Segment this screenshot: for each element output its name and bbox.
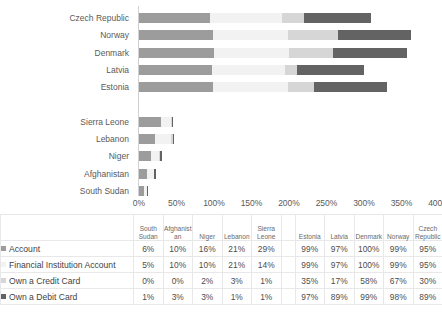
table-cell: 100%	[354, 257, 384, 273]
table-cell: 17%	[325, 273, 355, 289]
series-label: Financial Institution Account	[9, 260, 116, 270]
bar-track	[139, 169, 439, 179]
x-tick-100: 100%	[197, 197, 231, 210]
bar-track	[139, 134, 439, 144]
bar-track	[139, 117, 439, 127]
table-head: South SudanAfghanistanNigerLebanonSierra…	[1, 215, 442, 241]
bar-track	[139, 186, 439, 196]
table-body: Account6%10%16%21%29%99%97%100%99%95%Fin…	[1, 241, 442, 305]
bar-segment-account	[139, 13, 210, 23]
series-legend-item-own-a-credit-card: Own a Credit Card	[1, 273, 134, 289]
table-row: Own a Debit Card1%3%3%1%1%97%89%99%98%89…	[1, 289, 442, 305]
table-header-norway: Norway	[384, 215, 414, 241]
table-cell: 1%	[134, 289, 164, 305]
table-cell: 99%	[354, 289, 384, 305]
table-cell: 99%	[384, 257, 414, 273]
bar-segment-own-a-debit-card	[297, 65, 364, 75]
bar-segment-financial-institution-account	[147, 169, 155, 179]
table-cell-spacer	[281, 241, 295, 257]
table-cell: 0%	[163, 273, 193, 289]
bar-segment-own-a-debit-card	[173, 134, 174, 144]
category-label: Sierra Leone	[0, 114, 133, 130]
x-tick-400: 400%	[422, 197, 442, 210]
table-cell: 97%	[295, 289, 325, 305]
bar-segment-account	[139, 30, 213, 40]
bar-segment-account	[139, 117, 161, 127]
table-cell: 21%	[222, 257, 252, 273]
table-cell: 89%	[413, 289, 442, 305]
bar-segment-account	[139, 169, 147, 179]
category-label	[0, 97, 133, 113]
table-cell: 99%	[384, 241, 414, 257]
bar-segment-financial-institution-account	[151, 151, 159, 161]
table-cell: 97%	[325, 257, 355, 273]
legend-swatch-icon	[1, 262, 6, 267]
table-cell: 1%	[222, 289, 252, 305]
bar-segment-own-a-debit-card	[147, 186, 148, 196]
table-row: Own a Credit Card0%0%2%3%1%35%17%58%67%3…	[1, 273, 442, 289]
table-cell: 3%	[163, 289, 193, 305]
table-cell-spacer	[281, 289, 295, 305]
bar-segment-own-a-credit-card	[285, 65, 298, 75]
series-label: Own a Credit Card	[9, 276, 80, 286]
x-tick-350: 350%	[385, 197, 419, 210]
table-cell: 6%	[134, 241, 164, 257]
table-cell: 30%	[413, 273, 442, 289]
series-legend-item-financial-institution-account: Financial Institution Account	[1, 257, 134, 273]
table-header-south-sudan: South Sudan	[134, 215, 164, 241]
chart-row-norway: Norway	[0, 27, 442, 43]
category-label: Afghanistan	[0, 166, 133, 182]
table-cell: 58%	[354, 273, 384, 289]
chart-row-afghanistan: Afghanistan	[0, 166, 442, 182]
table-header-latvia: Latvia	[325, 215, 355, 241]
bar-track	[139, 65, 439, 75]
table-cell: 98%	[384, 289, 414, 305]
bar-segment-financial-institution-account	[214, 48, 289, 58]
table-cell: 100%	[354, 241, 384, 257]
bar-segment-financial-institution-account	[212, 65, 285, 75]
category-label: Denmark	[0, 45, 133, 61]
table-cell: 95%	[413, 241, 442, 257]
chart-row-estonia: Estonia	[0, 79, 442, 95]
category-label: Lebanon	[0, 131, 133, 147]
x-tick-250: 250%	[310, 197, 344, 210]
table-cell: 10%	[163, 241, 193, 257]
chart-row-spacer	[0, 97, 442, 113]
chart-row-latvia: Latvia	[0, 62, 442, 78]
category-label: Latvia	[0, 62, 133, 78]
table-row: Account6%10%16%21%29%99%97%100%99%95%	[1, 241, 442, 257]
bar-segment-own-a-debit-card	[154, 169, 156, 179]
x-tick-0: 0%	[122, 197, 156, 210]
stacked-bar-chart: Czech RepublicNorwayDenmarkLatviaEstonia…	[0, 0, 442, 214]
table-cell: 95%	[413, 257, 442, 273]
table-header-afghanistan: Afghanistan	[163, 215, 193, 241]
chart-row-denmark: Denmark	[0, 45, 442, 61]
series-legend-item-account: Account	[1, 241, 134, 257]
table-header-sierra-leone: Sierra Leone	[252, 215, 282, 241]
series-legend-item-own-a-debit-card: Own a Debit Card	[1, 289, 134, 305]
bar-segment-own-a-credit-card	[288, 30, 338, 40]
table-cell: 3%	[193, 289, 223, 305]
bar-segment-financial-institution-account	[210, 13, 281, 23]
data-table: South SudanAfghanistanNigerLebanonSierra…	[0, 214, 442, 305]
table-header-niger: Niger	[193, 215, 223, 241]
chart-row-czech-republic: Czech Republic	[0, 10, 442, 26]
bar-segment-account	[139, 82, 213, 92]
series-label: Account	[9, 244, 40, 254]
table-cell: 14%	[252, 257, 282, 273]
table-cell: 0%	[134, 273, 164, 289]
bar-segment-account	[139, 134, 155, 144]
table-header-czech-republic: Czech Republic	[413, 215, 442, 241]
bar-segment-own-a-credit-card	[288, 82, 314, 92]
bar-segment-own-a-credit-card	[289, 48, 333, 58]
table-header-estonia: Estonia	[295, 215, 325, 241]
bar-segment-account	[139, 65, 212, 75]
x-tick-150: 150%	[235, 197, 269, 210]
bar-segment-own-a-debit-card	[333, 48, 407, 58]
bar-segment-financial-institution-account	[213, 30, 287, 40]
bar-segment-account	[139, 48, 214, 58]
bar-track	[139, 151, 439, 161]
x-axis-tick-labels: 0%50%100%150%200%250%300%350%400%	[0, 197, 442, 211]
legend-swatch-icon	[1, 278, 6, 283]
data-table-area: South SudanAfghanistanNigerLebanonSierra…	[0, 214, 442, 320]
